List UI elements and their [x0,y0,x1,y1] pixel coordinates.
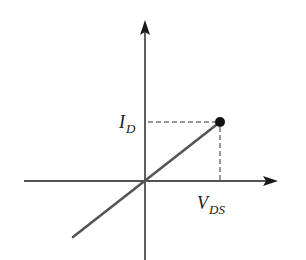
diagram-svg [0,0,306,260]
y-label-main: I [119,112,125,132]
iv-line [73,122,220,237]
iv-diagram: ID VDS [0,0,306,260]
y-axis-label: ID [119,113,135,131]
x-label-main: V [197,193,208,213]
operating-point [215,117,225,127]
x-axis-label: VDS [197,194,225,212]
x-label-sub: DS [209,202,225,217]
y-label-sub: D [126,121,135,136]
